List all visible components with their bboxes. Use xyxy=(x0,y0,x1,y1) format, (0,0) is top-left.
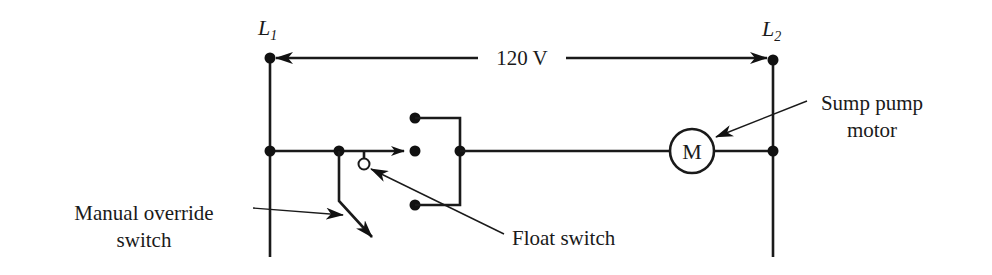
sump-pump-ladder-diagram: L1 L2 120 V M Manual override switch Flo… xyxy=(0,0,992,275)
l1-label: L1 xyxy=(257,15,277,43)
motor-letter: M xyxy=(682,139,702,164)
manual-override-label-1: Manual override xyxy=(74,201,213,225)
float-switch-leader xyxy=(371,169,504,234)
manual-override-label-2: switch xyxy=(117,228,172,252)
l1-terminal xyxy=(265,53,276,64)
contact-bracket xyxy=(415,118,460,205)
rung-node-l1 xyxy=(265,146,276,157)
l2-label: L2 xyxy=(761,16,781,44)
float-switch-label: Float switch xyxy=(512,226,616,250)
motor-leader xyxy=(716,101,807,137)
l2-terminal xyxy=(768,55,779,66)
motor-label-2: motor xyxy=(847,118,897,142)
motor-label-1: Sump pump xyxy=(821,91,923,115)
contact-middle xyxy=(410,146,421,157)
manual-override-leader xyxy=(253,208,343,215)
rung-node-l2 xyxy=(768,146,779,157)
float-switch-icon xyxy=(359,159,370,170)
voltage-label: 120 V xyxy=(496,46,548,70)
